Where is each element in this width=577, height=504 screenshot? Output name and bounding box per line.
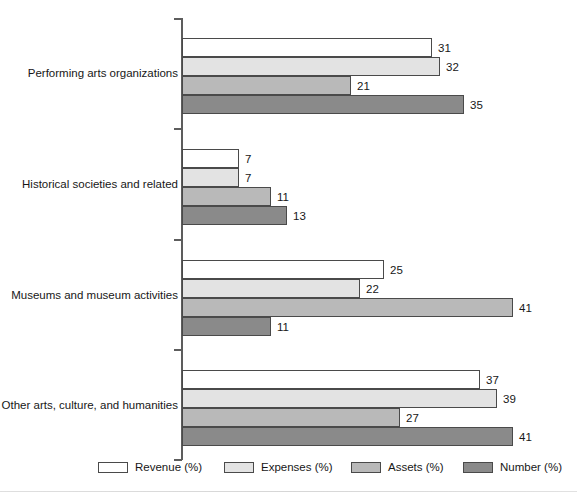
bar-revenue (182, 149, 239, 168)
chart-legend: Revenue (%) Expenses (%) Assets (%) Numb… (0, 458, 577, 488)
bottom-divider (0, 491, 577, 492)
legend-item-assets[interactable]: Assets (%) (351, 458, 444, 476)
legend-label: Revenue (%) (135, 461, 202, 474)
bar-revenue (182, 370, 480, 389)
bar-value-label: 35 (464, 98, 483, 111)
bar-group: Historical societies and related 7 7 11 … (0, 128, 577, 239)
legend-swatch-icon (463, 462, 493, 473)
category-label: Other arts, culture, and humanities (0, 399, 178, 412)
bar-value-label: 11 (271, 320, 289, 333)
legend-label: Number (%) (500, 461, 562, 474)
bar-value-label: 37 (480, 373, 499, 386)
bar-expenses (182, 168, 239, 187)
legend-item-number[interactable]: Number (%) (463, 458, 562, 476)
bar-value-label: 7 (239, 152, 251, 165)
bar-assets (182, 76, 351, 95)
bar-assets (182, 298, 513, 317)
bar-expenses (182, 279, 360, 298)
bar-assets (182, 408, 400, 427)
legend-swatch-icon (224, 462, 254, 473)
bar-value-label: 31 (432, 41, 451, 54)
bar-value-label: 22 (360, 282, 379, 295)
plot-area: Performing arts organizations 31 32 21 3… (0, 0, 577, 462)
bar-value-label: 21 (351, 79, 370, 92)
bar-number (182, 95, 464, 114)
bar-number (182, 317, 271, 336)
bar-expenses (182, 57, 440, 76)
bar-number (182, 427, 513, 446)
legend-label: Assets (%) (388, 461, 444, 474)
bar-assets (182, 187, 271, 206)
category-label: Museums and museum activities (0, 289, 178, 302)
bar-chart: Performing arts organizations 31 32 21 3… (0, 0, 577, 504)
bar-value-label: 41 (513, 430, 532, 443)
bar-group: Performing arts organizations 31 32 21 3… (0, 18, 577, 128)
legend-label: Expenses (%) (261, 461, 333, 474)
bar-value-label: 27 (400, 411, 419, 424)
category-label: Performing arts organizations (0, 67, 178, 80)
bar-expenses (182, 389, 497, 408)
bar-value-label: 32 (440, 60, 459, 73)
bar-revenue (182, 260, 384, 279)
bar-value-label: 39 (497, 392, 516, 405)
bar-value-label: 41 (513, 301, 532, 314)
bar-number (182, 206, 287, 225)
bar-value-label: 25 (384, 263, 403, 276)
legend-item-expenses[interactable]: Expenses (%) (224, 458, 333, 476)
bar-value-label: 13 (287, 209, 306, 222)
bar-value-label: 7 (239, 171, 251, 184)
legend-swatch-icon (98, 462, 128, 473)
bar-value-label: 11 (271, 190, 289, 203)
legend-swatch-icon (351, 462, 381, 473)
bar-revenue (182, 38, 432, 57)
legend-item-revenue[interactable]: Revenue (%) (98, 458, 202, 476)
category-label: Historical societies and related (0, 178, 178, 191)
bar-group: Other arts, culture, and humanities 37 3… (0, 349, 577, 460)
bar-group: Museums and museum activities 25 22 41 1… (0, 239, 577, 349)
